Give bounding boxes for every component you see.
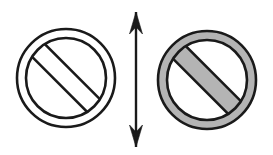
prohibition-sign-outline[interactable] (14, 26, 119, 131)
left-bar-outline (14, 26, 119, 131)
diagram-canvas: Prohibition sign fill comparison Two cir… (0, 0, 273, 155)
vertical-double-arrow[interactable] (130, 12, 143, 147)
right-bar-fill (155, 28, 260, 133)
left-ring-outer-circle (17, 29, 115, 127)
left-diagonal-bar (14, 26, 119, 131)
diagram-svg (0, 0, 273, 155)
right-diagonal-bar (155, 28, 260, 133)
left-ring-inner-circle (26, 38, 106, 118)
prohibition-sign-filled[interactable] (155, 28, 260, 133)
